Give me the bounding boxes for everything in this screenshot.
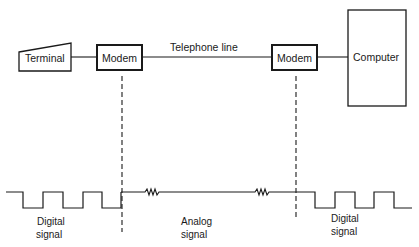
telephone-line: Telephone line: [142, 41, 272, 57]
analog-signal-line1: Analog: [181, 216, 212, 227]
digital-signal-right-line1: Digital: [331, 213, 359, 224]
digital-signal-left-line2: signal: [36, 229, 62, 240]
telephone-line-label: Telephone line: [170, 41, 238, 53]
analog-signal-caption: Analog signal: [181, 216, 212, 240]
modem-right-node: Modem: [272, 45, 317, 70]
terminal-label: Terminal: [25, 52, 65, 64]
digital-signal-left-wave: [6, 192, 121, 208]
computer-node: Computer: [348, 10, 406, 106]
terminal-node: Terminal: [19, 43, 71, 71]
digital-signal-right-line2: signal: [331, 226, 357, 237]
modem-left-label: Modem: [102, 52, 137, 64]
digital-signal-right-wave: [296, 192, 412, 208]
modem-right-label: Modem: [277, 52, 312, 64]
digital-signal-left-line1: Digital: [37, 216, 65, 227]
digital-signal-left-caption: Digital signal: [36, 216, 65, 240]
digital-signal-right-caption: Digital signal: [331, 213, 359, 237]
analog-signal-line2: signal: [181, 229, 207, 240]
modem-signal-diagram: Terminal Modem Telephone line Modem Comp…: [0, 0, 419, 247]
analog-signal-wave: [121, 189, 296, 195]
computer-label: Computer: [353, 51, 400, 63]
modem-left-node: Modem: [97, 45, 142, 70]
